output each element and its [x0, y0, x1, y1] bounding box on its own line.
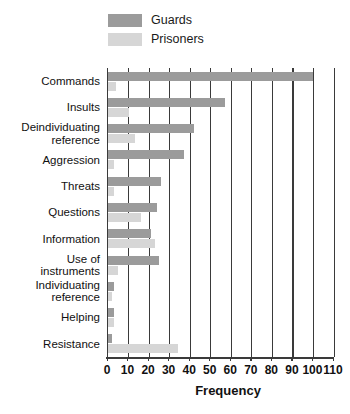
bar-guards — [108, 308, 114, 317]
legend-item-prisoners: Prisoners — [108, 32, 204, 47]
category-axis-labels: CommandsInsultsDeindividuating reference… — [0, 68, 104, 357]
x-axis-line — [106, 357, 334, 359]
bar-guards — [108, 334, 112, 343]
bar-guards — [108, 98, 225, 107]
bar-prisoners — [108, 82, 116, 91]
bar-guards — [108, 203, 157, 212]
category-label: Questions — [0, 206, 100, 218]
plot-area — [107, 68, 334, 357]
tick-mark-30 — [168, 357, 169, 361]
tick-mark-40 — [189, 357, 190, 361]
bar-prisoners — [108, 239, 155, 248]
tick-label-10: 10 — [121, 363, 134, 377]
tick-label-30: 30 — [162, 363, 175, 377]
tick-label-20: 20 — [141, 363, 154, 377]
tick-mark-60 — [230, 357, 231, 361]
bar-prisoners — [108, 108, 129, 117]
tick-mark-110 — [333, 357, 334, 361]
bar-prisoners — [108, 344, 178, 353]
bar-prisoners — [108, 213, 141, 222]
tick-label-0: 0 — [104, 363, 111, 377]
bar-group — [108, 68, 334, 357]
bar-prisoners — [108, 318, 114, 327]
bar-guards — [108, 150, 184, 159]
category-label: Commands — [0, 75, 100, 87]
legend-swatch-guards — [108, 14, 142, 27]
category-label: Deindividuating reference — [0, 121, 100, 145]
bar-guards — [108, 229, 151, 238]
bar-prisoners — [108, 160, 114, 169]
legend-label-prisoners: Prisoners — [151, 33, 204, 46]
bar-prisoners — [108, 292, 112, 301]
bar-guards — [108, 282, 114, 291]
tick-mark-100 — [312, 357, 313, 361]
category-label: Individuating reference — [0, 279, 100, 303]
tick-mark-80 — [271, 357, 272, 361]
legend-item-guards: Guards — [108, 13, 204, 28]
bar-guards — [108, 72, 313, 81]
bar-guards — [108, 256, 159, 265]
tick-mark-10 — [127, 357, 128, 361]
category-label: Insults — [0, 101, 100, 113]
tick-label-100: 100 — [302, 363, 322, 377]
tick-mark-90 — [291, 357, 292, 361]
category-label: Helping — [0, 311, 100, 323]
tick-label-60: 60 — [224, 363, 237, 377]
category-label: Use of instruments — [0, 253, 100, 277]
category-label: Threats — [0, 180, 100, 192]
tick-label-80: 80 — [265, 363, 278, 377]
bar-prisoners — [108, 187, 114, 196]
tick-label-90: 90 — [285, 363, 298, 377]
plot-area-wrapper: CommandsInsultsDeindividuating reference… — [0, 68, 350, 368]
bar-guards — [108, 124, 194, 133]
bar-guards — [108, 177, 161, 186]
tick-mark-0 — [107, 357, 108, 361]
x-axis-title: Frequency — [0, 383, 350, 398]
tick-label-50: 50 — [203, 363, 216, 377]
legend-swatch-prisoners — [108, 33, 142, 46]
bar-chart: Guards Prisoners CommandsInsultsDeindivi… — [0, 0, 350, 414]
chart-legend: Guards Prisoners — [108, 13, 204, 47]
tick-label-110: 110 — [323, 363, 342, 377]
tick-mark-20 — [148, 357, 149, 361]
tick-label-40: 40 — [182, 363, 195, 377]
bar-prisoners — [108, 266, 118, 275]
tick-mark-50 — [209, 357, 210, 361]
bar-prisoners — [108, 134, 135, 143]
legend-label-guards: Guards — [151, 14, 192, 27]
tick-mark-70 — [250, 357, 251, 361]
tick-label-70: 70 — [244, 363, 257, 377]
category-label: Resistance — [0, 338, 100, 350]
category-label: Aggression — [0, 154, 100, 166]
category-label: Information — [0, 233, 100, 245]
